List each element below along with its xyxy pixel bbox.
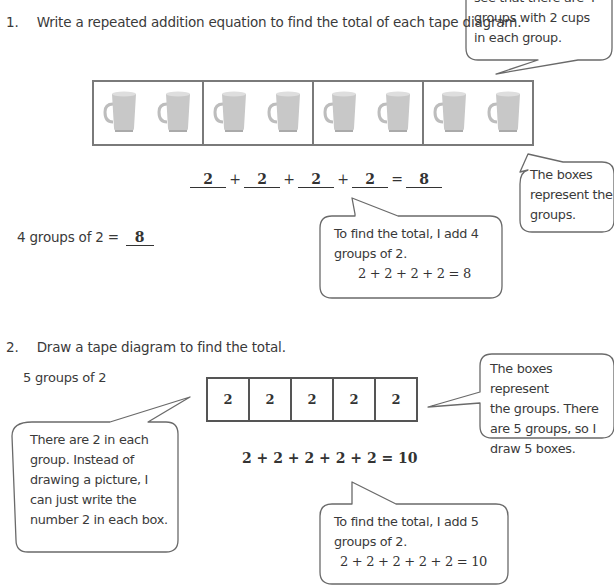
problem-2-number: 2.	[6, 339, 18, 355]
callout-total-1-text: To find the total, I add 4 groups of 2. …	[334, 224, 479, 284]
callout-line: number 2 in each box.	[30, 510, 168, 530]
problem-1-number: 1.	[6, 14, 18, 30]
problem-1-instruction: Write a repeated addition equation to fi…	[37, 14, 522, 30]
addend-blank[interactable]: 2	[298, 172, 334, 188]
addend-blank[interactable]: 2	[244, 172, 280, 188]
callout-line: There are 2 in each	[30, 430, 168, 450]
callout-equation: 2 + 2 + 2 + 2 = 8	[334, 264, 479, 284]
callout-line: The boxes	[530, 165, 613, 185]
tape-segment: 2	[334, 379, 376, 420]
tape-diagram-mugs	[92, 80, 534, 146]
callout-line: groups.	[530, 205, 613, 225]
callout-line: groups with 2 cups	[474, 8, 595, 28]
callout-line: group. Instead of	[30, 450, 168, 470]
callout-line: are 5 groups, so I	[490, 419, 614, 439]
plus-sign: +	[280, 171, 298, 187]
plus-sign: +	[226, 171, 244, 187]
equals-sign: =	[388, 171, 406, 187]
tape-segment: 2	[376, 379, 416, 420]
callout-line: in each group.	[474, 28, 595, 48]
mug-icon	[213, 88, 249, 138]
tape-segment: 2	[292, 379, 334, 420]
callout-total-2-text: To find the total, I add 5 groups of 2. …	[334, 512, 487, 572]
problem-2-prompt: 5 groups of 2	[23, 370, 106, 385]
mug-icon	[433, 88, 469, 138]
callout-line: The boxes represent	[490, 359, 614, 399]
problem-1-heading: 1. Write a repeated addition equation to…	[6, 14, 521, 30]
callout-line: can just write the	[30, 490, 168, 510]
callout-line: represent the	[530, 185, 613, 205]
callout-line: groups of 2.	[334, 244, 479, 264]
problem-2-heading: 2. Draw a tape diagram to find the total…	[6, 339, 286, 355]
mug-icon	[377, 88, 413, 138]
callout-line: the groups. There	[490, 399, 614, 419]
callout-boxes-2-text: The boxes represent the groups. There ar…	[490, 359, 614, 459]
tape-segment: 2	[208, 379, 250, 420]
mug-icon	[323, 88, 359, 138]
callout-line: To find the total, I add 5	[334, 512, 487, 532]
tape-segment	[424, 82, 532, 144]
repeated-addition-equation: 2+2+2+2=8	[190, 171, 442, 188]
groups-statement: 4 groups of 2 = 8	[17, 229, 154, 246]
tape-segment	[204, 82, 314, 144]
callout-boxes-text: The boxes represent the groups.	[530, 165, 613, 225]
mug-icon	[157, 88, 193, 138]
mug-icon	[487, 88, 523, 138]
callout-line: draw 5 boxes.	[490, 439, 614, 459]
tape-segment: 2	[250, 379, 292, 420]
tape-diagram-numbers: 2 2 2 2 2	[206, 377, 418, 422]
callout-equation: 2 + 2 + 2 + 2 + 2 = 10	[334, 552, 487, 572]
mug-icon	[267, 88, 303, 138]
addend-blank[interactable]: 2	[190, 172, 226, 188]
groups-statement-label: 4 groups of 2 =	[17, 229, 119, 245]
callout-each-text: There are 2 in each group. Instead of dr…	[30, 430, 168, 530]
groups-answer-blank[interactable]: 8	[126, 230, 154, 246]
tape-segment	[94, 82, 204, 144]
plus-sign: +	[334, 171, 352, 187]
addend-blank[interactable]: 2	[352, 172, 388, 188]
callout-line: drawing a picture, I	[30, 470, 168, 490]
mug-icon	[103, 88, 139, 138]
callout-groups-text: see that there are 4 groups with 2 cups …	[474, 0, 595, 48]
callout-line: see that there are 4	[474, 0, 595, 8]
callout-line: To find the total, I add 4	[334, 224, 479, 244]
problem-2-equation: 2 + 2 + 2 + 2 + 2 = 10	[242, 450, 418, 466]
tape-segment	[314, 82, 424, 144]
callout-line: groups of 2.	[334, 532, 487, 552]
total-blank[interactable]: 8	[406, 172, 442, 188]
problem-2-instruction: Draw a tape diagram to find the total.	[37, 339, 286, 355]
